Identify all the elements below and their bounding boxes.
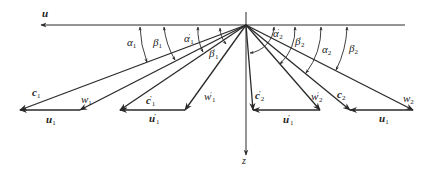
angle-arc-beta2 [336,27,347,70]
w1-vector [80,25,246,110]
label-c2: c2 [337,89,345,102]
angle-label-beta2: β2 [349,43,358,56]
c2-prime-vector [246,25,253,110]
angle-label-alpha1: α1 [127,37,136,50]
c1-prime-vector [120,25,246,110]
label-w2-prime: w′2 [311,91,322,104]
angle-arc-alpha1 [140,27,147,62]
angle-label-alpha2: α2 [322,44,331,57]
label-u1: u1 [46,114,56,127]
label-u1-right: u1 [379,113,389,126]
angle-label-beta1-prime: β′1 [209,48,219,61]
label-u1-prime: u′1 [149,113,160,126]
u-axis-label: u [42,8,48,19]
w1-prime-vector [185,25,246,110]
label-w1-prime: w′1 [204,91,215,104]
angle-label-beta1: β1 [153,37,162,50]
z-axis-label: z [242,156,246,166]
velocity-triangle-inlet-1-prime [120,25,246,110]
label-w2: w2 [403,93,414,106]
label-w1: w1 [81,94,92,107]
angle-arc-alpha2 [306,27,321,73]
angle-label-beta2-prime: β′2 [295,36,305,49]
label-c1: c1 [32,87,40,100]
label-u1-prime-right: u′1 [283,114,294,127]
velocity-triangle-diagram [0,0,425,170]
label-c2-prime: c′2 [255,90,264,103]
angle-label-alpha2-prime: α′2 [273,28,283,41]
label-c1-prime: c′1 [146,95,155,108]
angle-label-alpha1-prime: α′1 [184,33,194,46]
